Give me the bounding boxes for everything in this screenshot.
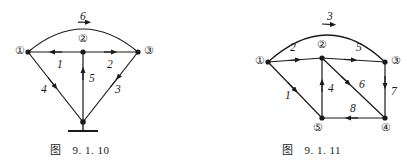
- node-2-dot: [80, 49, 85, 54]
- edge-label-3: 3: [115, 84, 121, 96]
- node-label-f3: ③: [391, 56, 401, 67]
- node-label-3: ③: [144, 46, 154, 57]
- edge-label-f4: 4: [328, 83, 334, 95]
- figure-caption-2-number: 9. 1. 11: [305, 144, 342, 156]
- edge-label-4: 4: [41, 84, 47, 96]
- node-f1-dot: [265, 59, 270, 64]
- edge-label-f6: 6: [359, 79, 365, 91]
- edge-label-f7: 7: [391, 86, 397, 98]
- node-label-1: ①: [15, 46, 25, 57]
- edge-4-arrowhead: [48, 78, 56, 88]
- edge-label-f5: 5: [356, 42, 362, 54]
- node-f2-dot: [319, 55, 324, 60]
- node-f3-dot: [382, 59, 387, 64]
- figure-sheet: ① ② ③ 6 1 2 5 4 3 图9. 1. 10 ① ② ③ ④ ⑤ 3 …: [0, 0, 407, 168]
- edge-f3-arrowhead: [322, 24, 333, 25]
- edge-label-6: 6: [80, 11, 86, 23]
- figure-caption-2-word: 图: [282, 144, 294, 156]
- node-label-f1: ①: [255, 56, 265, 67]
- edge-label-5: 5: [89, 73, 95, 85]
- node-label-f4: ④: [381, 123, 391, 134]
- node-label-f2: ②: [317, 40, 327, 51]
- node-f5-dot: [319, 115, 324, 120]
- figure-caption-1: 图9. 1. 10: [50, 141, 110, 157]
- edge-label-f8: 8: [350, 103, 356, 115]
- edge-label-f1: 1: [285, 90, 291, 102]
- edge-label-f2: 2: [290, 42, 296, 54]
- edge-f5-arrowhead: [344, 59, 354, 60]
- edge-f6-arrowhead: [341, 76, 349, 83]
- edge-label-2: 2: [107, 59, 113, 71]
- node-label-f5: ⑤: [313, 123, 323, 134]
- node-1-dot: [25, 49, 30, 54]
- figure-caption-1-word: 图: [50, 144, 62, 156]
- node-f4-dot: [382, 115, 387, 120]
- edge-label-f3: 3: [327, 11, 333, 23]
- figure-caption-1-number: 9. 1. 10: [73, 144, 110, 156]
- node-3-dot: [135, 49, 140, 54]
- edge-label-1: 1: [57, 59, 63, 71]
- figure-caption-2: 图9. 1. 11: [282, 141, 341, 157]
- node-label-2: ②: [78, 34, 88, 45]
- edge-f2-arrowhead: [288, 60, 298, 61]
